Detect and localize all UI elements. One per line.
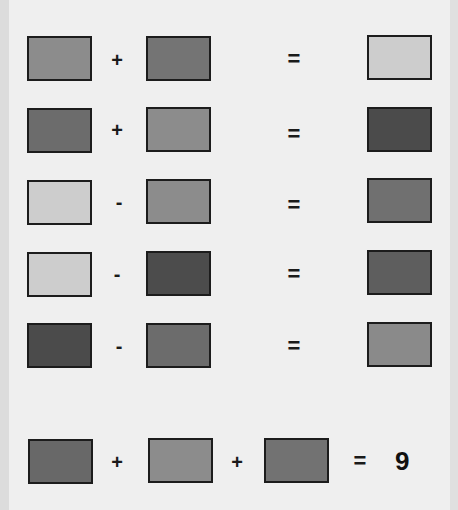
result-swatch bbox=[367, 322, 432, 367]
operand-swatch bbox=[264, 438, 329, 483]
equals-sign: = bbox=[284, 264, 304, 284]
page-edge-right bbox=[450, 0, 458, 510]
operand-swatch bbox=[146, 107, 211, 152]
equals-sign: = bbox=[284, 49, 304, 69]
plus-operator: + bbox=[107, 452, 127, 472]
operand-swatch bbox=[27, 252, 92, 297]
operand-swatch bbox=[28, 439, 93, 484]
operand-swatch bbox=[27, 108, 92, 153]
equals-sign: = bbox=[350, 451, 370, 471]
operand-swatch bbox=[27, 323, 92, 368]
plus-operator: + bbox=[107, 50, 127, 70]
minus-operator: - bbox=[107, 264, 127, 284]
minus-operator: - bbox=[109, 192, 129, 212]
operand-swatch bbox=[146, 36, 211, 81]
plus-operator: + bbox=[227, 452, 247, 472]
operand-swatch bbox=[146, 179, 211, 224]
equals-sign: = bbox=[284, 336, 304, 356]
equals-sign: = bbox=[284, 195, 304, 215]
operand-swatch bbox=[27, 36, 92, 81]
minus-operator: - bbox=[109, 336, 129, 356]
answer-value: 9 bbox=[395, 448, 409, 474]
operand-swatch bbox=[27, 180, 92, 225]
operand-swatch bbox=[148, 438, 213, 483]
result-swatch bbox=[367, 35, 432, 80]
equals-sign: = bbox=[284, 124, 304, 144]
operand-swatch bbox=[146, 323, 211, 368]
plus-operator: + bbox=[107, 120, 127, 140]
result-swatch bbox=[367, 178, 432, 223]
result-swatch bbox=[367, 107, 432, 152]
page-edge-left bbox=[0, 0, 9, 510]
operand-swatch bbox=[146, 251, 211, 296]
result-swatch bbox=[367, 250, 432, 295]
